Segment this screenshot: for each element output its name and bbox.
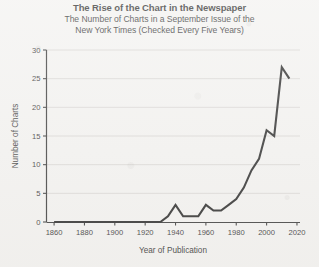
plot-area: 051015202530 186018801900192019401960198… (0, 0, 319, 267)
y-tick-label: 25 (32, 74, 40, 83)
y-tick-label: 5 (36, 189, 40, 198)
chart-figure: The Rise of the Chart in the Newspaper T… (0, 0, 319, 267)
x-axis-title: Year of Publication (139, 246, 207, 255)
x-tick-label: 1980 (228, 228, 245, 237)
x-tick-label: 1960 (197, 228, 214, 237)
y-tick-label: 15 (32, 132, 40, 141)
x-tick-label: 1860 (46, 228, 63, 237)
data-series-line (54, 67, 289, 222)
gridline-group (47, 50, 301, 193)
x-tick-label: 2020 (289, 228, 306, 237)
y-tick-label: 20 (32, 103, 40, 112)
x-tick-label: 2000 (258, 228, 275, 237)
y-tick-label: 10 (32, 160, 40, 169)
x-tick-label: 1900 (106, 228, 123, 237)
x-tick-label: 1880 (76, 228, 93, 237)
x-tick-label: 1940 (167, 228, 184, 237)
x-tick-group: 186018801900192019401960198020002020 (46, 222, 306, 237)
y-tick-group: 051015202530 (32, 46, 46, 227)
y-axis-title: Number of Charts (11, 104, 20, 169)
y-tick-label: 0 (36, 218, 40, 227)
y-tick-label: 30 (32, 46, 40, 55)
x-tick-label: 1920 (137, 228, 154, 237)
